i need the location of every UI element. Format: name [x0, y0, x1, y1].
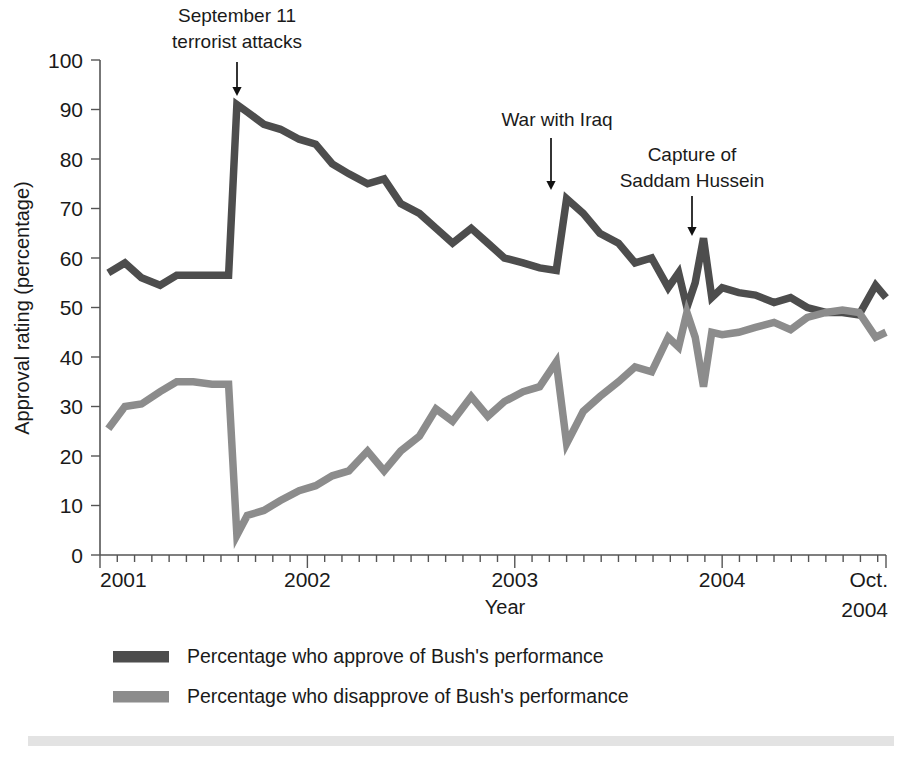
footer-divider-bar [28, 736, 894, 746]
x-tick-label: 2004 [699, 568, 746, 591]
x-tick-label: Oct. [849, 568, 888, 591]
annotation-label-capture-of-saddam-hussein: Capture of [648, 144, 737, 165]
y-tick-label: 30 [60, 395, 83, 418]
y-tick-label: 90 [60, 98, 83, 121]
y-tick-label: 60 [60, 247, 83, 270]
x-tick-label: 2002 [284, 568, 331, 591]
x-tick-label: 2004 [841, 598, 888, 621]
y-tick-label: 70 [60, 197, 83, 220]
annotation-label-capture-of-saddam-hussein: Saddam Hussein [620, 170, 765, 191]
approval-rating-chart: 0102030405060708090100 2001200220032004O… [0, 0, 908, 765]
y-tick-label: 80 [60, 148, 83, 171]
y-axis-title: Approval rating (percentage) [11, 181, 33, 434]
chart-svg: 0102030405060708090100 2001200220032004O… [0, 0, 908, 765]
legend-label-disapprove: Percentage who disapprove of Bush's perf… [187, 685, 629, 707]
legend-swatch-approve [113, 651, 169, 663]
y-tick-label: 0 [71, 544, 83, 567]
y-tick-label: 40 [60, 346, 83, 369]
legend-label-approve: Percentage who approve of Bush's perform… [187, 645, 604, 667]
y-tick-label: 20 [60, 445, 83, 468]
x-tick-label: 2001 [100, 568, 147, 591]
annotation-label-war-with-iraq: War with Iraq [501, 109, 612, 130]
annotation-label-september-11: terrorist attacks [172, 31, 302, 52]
y-tick-label: 10 [60, 494, 83, 517]
y-tick-label: 100 [48, 49, 83, 72]
x-tick-label: 2003 [491, 568, 538, 591]
y-tick-label: 50 [60, 296, 83, 319]
legend-swatch-disapprove [113, 691, 169, 703]
annotation-label-september-11: September 11 [178, 5, 296, 26]
x-axis-title: Year [485, 596, 526, 618]
